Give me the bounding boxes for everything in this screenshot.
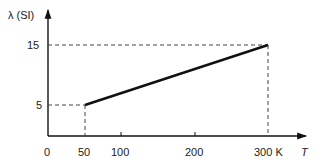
chart: λ (SI) 15 5 0 50 100 200 300 K T [0,0,322,162]
x-tick-label-50: 50 [78,146,90,158]
x-axis-label: T [301,146,309,158]
y-axis-label: λ (SI) [8,9,34,21]
x-tick-label-200: 200 [185,146,203,158]
dashed-guides [48,45,268,136]
x-tick-label-0: 0 [44,146,50,158]
y-tick-label-5: 5 [36,99,42,111]
y-tick-label-15: 15 [27,39,39,51]
x-tick-label-300: 300 K [254,146,283,158]
data-line [85,45,268,105]
x-tick-label-100: 100 [111,146,129,158]
